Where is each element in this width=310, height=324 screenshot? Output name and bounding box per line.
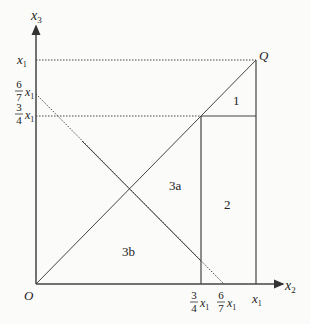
point-Q-label: Q — [259, 48, 269, 63]
diagonal-OQ — [36, 60, 256, 284]
svg-text:3: 3 — [191, 289, 197, 301]
svg-text:6: 6 — [16, 78, 22, 90]
region-2-label: 2 — [224, 197, 231, 212]
y-axis-label: x3 — [30, 8, 42, 25]
diagram: x3 x2 O Q x1 6 7 x1 3 4 x1 3 4 x1 6 7 x1… — [0, 0, 310, 324]
x-tick-x1: x1 — [251, 291, 262, 308]
y-tick-three-quarters: 3 4 x1 — [15, 101, 34, 126]
svg-text:4: 4 — [16, 114, 22, 126]
origin-label: O — [24, 288, 34, 303]
x-tick-three-quarters: 3 4 x1 — [190, 289, 209, 314]
line-six-sevenths-solid — [82, 141, 201, 261]
svg-text:3: 3 — [16, 101, 22, 113]
svg-text:x1: x1 — [251, 291, 262, 308]
x-axis-label: x2 — [284, 278, 296, 295]
svg-text:4: 4 — [191, 302, 197, 314]
region-3b-label: 3b — [122, 244, 135, 259]
svg-text:6: 6 — [218, 289, 224, 301]
region-3a-label: 3a — [169, 178, 182, 193]
svg-text:x1: x1 — [24, 85, 34, 101]
svg-text:x1: x1 — [16, 52, 27, 69]
svg-text:x1: x1 — [226, 296, 236, 312]
region-1-label: 1 — [233, 93, 240, 108]
y-tick-x1: x1 — [16, 52, 27, 69]
y-tick-six-sevenths: 6 7 x1 — [15, 78, 34, 103]
svg-text:x1: x1 — [199, 296, 209, 312]
svg-text:7: 7 — [218, 302, 224, 314]
x-tick-six-sevenths: 6 7 x1 — [217, 289, 236, 314]
svg-text:x1: x1 — [24, 108, 34, 124]
